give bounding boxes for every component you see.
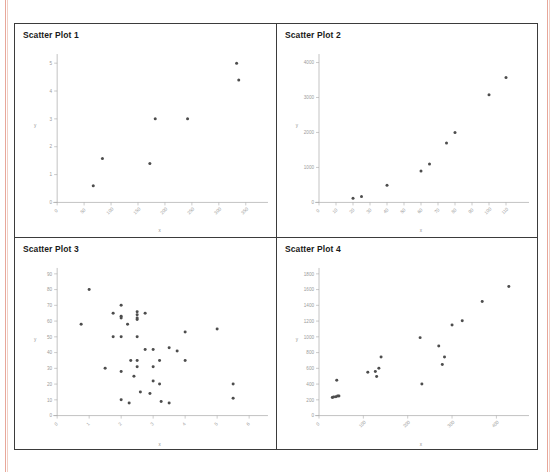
svg-text:110: 110 xyxy=(501,206,510,215)
svg-text:1600: 1600 xyxy=(304,287,315,292)
svg-text:1000: 1000 xyxy=(304,165,315,170)
svg-text:40: 40 xyxy=(382,207,389,214)
document-page: Scatter Plot 1 0123450501001502002503003… xyxy=(0,0,554,472)
svg-text:10: 10 xyxy=(47,397,53,402)
svg-text:10: 10 xyxy=(331,207,338,214)
svg-text:5: 5 xyxy=(50,61,53,66)
panel-scatter-plot-4: Scatter Plot 4 0200400600800100012001400… xyxy=(276,237,537,450)
svg-text:50: 50 xyxy=(399,207,406,214)
svg-text:400: 400 xyxy=(306,381,314,386)
right-margin-rule-secondary xyxy=(549,0,550,472)
svg-text:0: 0 xyxy=(50,413,53,418)
svg-text:4: 4 xyxy=(50,89,53,94)
clipped-header-text xyxy=(0,0,554,9)
svg-text:90: 90 xyxy=(47,271,53,276)
svg-text:y: y xyxy=(296,336,299,341)
right-margin-rule xyxy=(547,0,548,472)
svg-text:200: 200 xyxy=(306,397,314,402)
plot-canvas-3: 01020304050607080900123456xy xyxy=(15,254,276,450)
svg-text:3: 3 xyxy=(50,117,53,122)
svg-text:80: 80 xyxy=(47,287,53,292)
svg-text:350: 350 xyxy=(240,206,249,215)
svg-text:300: 300 xyxy=(213,206,222,215)
svg-text:200: 200 xyxy=(159,206,168,215)
svg-text:2: 2 xyxy=(117,421,123,427)
svg-text:800: 800 xyxy=(306,350,314,355)
svg-text:100: 100 xyxy=(358,419,367,428)
svg-text:x: x xyxy=(420,228,423,233)
svg-text:x: x xyxy=(158,441,161,446)
svg-text:0: 0 xyxy=(311,200,314,205)
svg-text:1: 1 xyxy=(85,421,91,427)
plot-canvas-4: 0200400600800100012001400160018000100200… xyxy=(277,254,537,450)
svg-text:200: 200 xyxy=(402,419,411,428)
svg-text:1000: 1000 xyxy=(304,334,315,339)
svg-text:1200: 1200 xyxy=(304,318,315,323)
svg-text:1800: 1800 xyxy=(304,271,315,276)
svg-text:6: 6 xyxy=(245,421,251,427)
svg-text:4000: 4000 xyxy=(304,60,315,65)
svg-text:y: y xyxy=(296,123,299,128)
svg-text:x: x xyxy=(420,441,423,446)
svg-text:30: 30 xyxy=(47,366,53,371)
panel-scatter-plot-1: Scatter Plot 1 0123450501001502002503003… xyxy=(15,24,276,237)
svg-text:0: 0 xyxy=(315,208,321,214)
panel-title-4: Scatter Plot 4 xyxy=(285,244,341,254)
svg-text:100: 100 xyxy=(105,206,114,215)
svg-text:2: 2 xyxy=(50,144,53,149)
svg-text:0: 0 xyxy=(311,413,314,418)
svg-text:400: 400 xyxy=(491,419,500,428)
left-margin-rule-secondary xyxy=(7,0,8,472)
svg-text:50: 50 xyxy=(79,207,86,214)
scatter-svg-4: 0200400600800100012001400160018000100200… xyxy=(277,254,537,450)
svg-text:y: y xyxy=(34,336,37,341)
svg-text:3: 3 xyxy=(149,421,155,427)
svg-text:80: 80 xyxy=(450,207,457,214)
svg-text:40: 40 xyxy=(47,350,53,355)
svg-text:5: 5 xyxy=(213,421,219,427)
svg-text:2000: 2000 xyxy=(304,130,315,135)
svg-text:0: 0 xyxy=(315,421,321,427)
panel-title-2: Scatter Plot 2 xyxy=(285,30,341,40)
svg-text:70: 70 xyxy=(433,207,440,214)
scatter-svg-2: 0100020003000400001020304050607080901001… xyxy=(277,40,537,237)
svg-text:x: x xyxy=(158,228,161,233)
svg-text:300: 300 xyxy=(447,419,456,428)
svg-text:0: 0 xyxy=(50,200,53,205)
svg-text:30: 30 xyxy=(365,207,372,214)
svg-text:60: 60 xyxy=(47,318,53,323)
svg-text:20: 20 xyxy=(47,381,53,386)
panel-scatter-plot-2: Scatter Plot 2 0100020003000400001020304… xyxy=(276,24,537,237)
svg-text:y: y xyxy=(34,123,37,128)
svg-text:250: 250 xyxy=(186,206,195,215)
svg-text:150: 150 xyxy=(132,206,141,215)
svg-text:20: 20 xyxy=(348,207,355,214)
panel-scatter-plot-3: Scatter Plot 3 0102030405060708090012345… xyxy=(15,237,276,450)
plot-canvas-1: 012345050100150200250300350xy xyxy=(15,40,276,237)
svg-text:0: 0 xyxy=(53,421,59,427)
svg-text:60: 60 xyxy=(416,207,423,214)
left-margin-rule xyxy=(5,0,6,472)
scatter-plot-grid: Scatter Plot 1 0123450501001502002503003… xyxy=(14,23,538,450)
scatter-svg-3: 01020304050607080900123456xy xyxy=(15,254,276,450)
plot-canvas-2: 0100020003000400001020304050607080901001… xyxy=(277,40,537,237)
svg-text:70: 70 xyxy=(47,303,53,308)
svg-text:0: 0 xyxy=(53,208,59,214)
svg-text:100: 100 xyxy=(483,206,492,215)
svg-text:4: 4 xyxy=(181,421,187,427)
svg-text:1: 1 xyxy=(50,172,53,177)
panel-title-1: Scatter Plot 1 xyxy=(23,30,79,40)
svg-text:3000: 3000 xyxy=(304,95,315,100)
svg-text:1400: 1400 xyxy=(304,303,315,308)
svg-text:90: 90 xyxy=(467,207,474,214)
scatter-svg-1: 012345050100150200250300350xy xyxy=(15,40,276,237)
panel-title-3: Scatter Plot 3 xyxy=(23,244,79,254)
svg-text:600: 600 xyxy=(306,366,314,371)
svg-text:50: 50 xyxy=(47,334,53,339)
